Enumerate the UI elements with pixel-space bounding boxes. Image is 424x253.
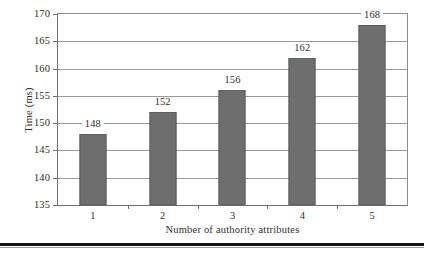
x-axis-tick-label: 1 xyxy=(90,211,95,222)
bar-value-label: 162 xyxy=(291,43,313,54)
y-axis-tick-label: 160 xyxy=(34,63,50,74)
y-axis-tick xyxy=(53,205,58,206)
x-axis-tick-label: 3 xyxy=(230,211,235,222)
x-axis-tick-label: 5 xyxy=(369,211,374,222)
plot-area: 135140145150155160165170 148152156162168… xyxy=(57,13,408,206)
bar-band: 162 xyxy=(267,14,337,205)
bar-value-label: 152 xyxy=(152,97,174,108)
y-axis-tick-label: 140 xyxy=(34,172,50,183)
x-axis-tick-label: 2 xyxy=(160,211,165,222)
x-axis-tick xyxy=(198,205,199,209)
x-axis-title: Number of authority attributes xyxy=(57,224,408,235)
y-axis-tick-label: 145 xyxy=(34,145,50,156)
bar-series: 148152156162168 xyxy=(58,14,407,205)
bar xyxy=(79,134,106,205)
y-axis-tick-label: 165 xyxy=(34,36,50,47)
bar xyxy=(219,90,246,205)
page-separator-rule-secondary xyxy=(0,247,424,248)
bar-band: 152 xyxy=(128,14,198,205)
y-axis-tick-label: 155 xyxy=(34,91,50,102)
y-axis-tick-label: 150 xyxy=(34,118,50,129)
y-axis-tick-label: 170 xyxy=(34,9,50,20)
bar-value-label: 156 xyxy=(221,75,243,86)
bar xyxy=(289,58,316,205)
x-axis-tick-label: 4 xyxy=(300,211,305,222)
y-axis-title: Time (ms) xyxy=(23,87,34,132)
x-axis-tick xyxy=(128,205,129,209)
bar-value-label: 168 xyxy=(361,10,383,21)
bar-band: 168 xyxy=(337,14,407,205)
bar-chart-figure: Time (ms) 135140145150155160165170 14815… xyxy=(0,0,424,253)
x-axis-tick xyxy=(337,205,338,209)
bar xyxy=(359,25,386,205)
bar xyxy=(149,112,176,205)
x-axis-tick xyxy=(267,205,268,209)
bar-value-label: 148 xyxy=(82,119,104,130)
bar-band: 156 xyxy=(198,14,268,205)
page-separator-rule xyxy=(0,243,424,246)
y-axis-tick-label: 135 xyxy=(34,200,50,211)
bar-band: 148 xyxy=(58,14,128,205)
